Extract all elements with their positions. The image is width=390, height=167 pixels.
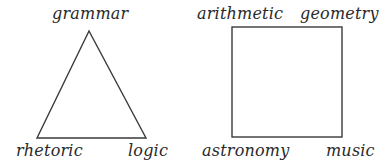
label-geometry: geometry [300,6,379,22]
label-music: music [326,143,375,159]
label-grammar: grammar [52,6,128,22]
label-astronomy: astronomy [202,143,289,159]
label-logic: logic [128,143,168,159]
label-arithmetic: arithmetic [197,6,283,22]
label-rhetoric: rhetoric [16,143,83,159]
trivium-triangle [37,31,146,138]
quadrivium-square [232,27,342,137]
